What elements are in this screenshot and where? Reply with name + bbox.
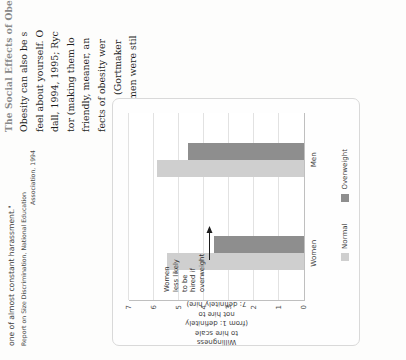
bar-women-overweight[interactable] bbox=[214, 236, 304, 253]
bar-men-normal[interactable] bbox=[157, 160, 305, 177]
y-axis-title-line: Willingness bbox=[186, 337, 249, 346]
legend-swatch-overweight bbox=[341, 194, 349, 202]
bar-group-men: Men bbox=[129, 113, 304, 207]
y-axis-tick-label: 0 bbox=[300, 305, 308, 309]
legend-item-overweight[interactable]: Overweight bbox=[341, 149, 349, 201]
pull-quote: one of almost constant harassment." Repo… bbox=[6, 150, 37, 346]
legend-item-normal[interactable]: Normal bbox=[341, 224, 349, 261]
plot-area: 01234567WomenMenWomenless likelyto behir… bbox=[129, 113, 305, 301]
chart-annotation-line: less likely bbox=[172, 254, 181, 292]
chart-annotation-line: Women bbox=[163, 254, 172, 292]
scanned-book-page: one of almost constant harassment." Repo… bbox=[0, 0, 406, 360]
chart-annotation-line: to be bbox=[181, 254, 190, 292]
body-line: feel about yourself. O bbox=[32, 4, 48, 132]
y-axis-tick-label: 2 bbox=[250, 305, 258, 309]
pull-quote-credit-line-1: Report on Size Discrimination, National … bbox=[20, 192, 27, 346]
pull-quote-line: one of almost constant harassment." bbox=[6, 150, 17, 346]
y-axis-title-line: to hire scale bbox=[186, 328, 249, 337]
body-line: friendly, meaner, an bbox=[78, 4, 94, 132]
chart-annotation-line: hired if bbox=[189, 254, 198, 292]
y-axis-title-line: not hire to bbox=[186, 309, 249, 318]
body-line: fects of obesity wer bbox=[94, 4, 110, 132]
y-axis-tick-label: 3 bbox=[225, 305, 233, 309]
category-label-women: Women bbox=[309, 207, 318, 301]
annotation-arrow-icon bbox=[198, 226, 217, 260]
body-line: tor (making them lo bbox=[63, 4, 79, 132]
pull-quote-credit-line-2: Association, 1994 bbox=[29, 150, 38, 346]
figure-bar-chart: Willingnessto hire scale(from 1: definit… bbox=[112, 98, 360, 346]
legend-label-normal: Normal bbox=[341, 224, 349, 249]
category-label-men: Men bbox=[309, 113, 318, 207]
body-line: dall, 1994, 1995; Ryc bbox=[47, 4, 63, 132]
bar-men-overweight[interactable] bbox=[188, 143, 304, 160]
y-axis-tick-label: 5 bbox=[175, 305, 183, 309]
y-axis-tick-label: 4 bbox=[200, 305, 208, 309]
legend-label-overweight: Overweight bbox=[341, 149, 349, 189]
y-axis-tick-label: 1 bbox=[275, 305, 283, 309]
legend-swatch-normal bbox=[341, 253, 349, 261]
y-axis-tick-label: 7 bbox=[125, 305, 133, 309]
section-heading: The Social Effects of Obesity bbox=[4, 0, 14, 132]
body-line: Obesity can also be s bbox=[16, 4, 32, 132]
chart-legend: NormalOverweight bbox=[341, 109, 349, 301]
page-content-rotated: one of almost constant harassment." Repo… bbox=[0, 0, 406, 360]
y-axis-tick-label: 6 bbox=[150, 305, 158, 309]
y-axis-title-line: (from 1: definitely bbox=[186, 318, 249, 327]
pull-quote-credit: Report on Size Discrimination, National … bbox=[20, 150, 37, 346]
